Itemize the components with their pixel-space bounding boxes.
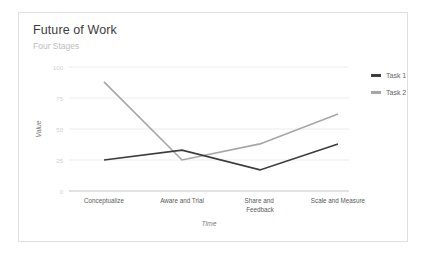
legend-swatch-icon (371, 91, 381, 94)
legend-swatch-icon (371, 74, 381, 77)
y-tick-label: 75 (56, 96, 63, 102)
x-tick-label-line1: Share and (245, 197, 275, 204)
chart-card: Future of Work Four Stages 100 75 50 25 … (18, 12, 408, 242)
x-tick-label-line2: Feedback (246, 206, 275, 213)
legend-item-task2[interactable]: Task 2 (371, 88, 425, 97)
chart-legend: Task 1 Task 2 (371, 71, 425, 105)
x-tick-label: Conceptualize (84, 197, 124, 205)
x-axis-title: Time (201, 220, 216, 227)
series-line-task2 (104, 82, 338, 160)
y-tick-label: 25 (56, 158, 63, 164)
legend-label: Task 1 (386, 72, 406, 79)
y-axis-title: Value (35, 120, 42, 137)
y-axis-tick-labels: 100 75 50 25 0 (53, 65, 64, 195)
legend-label: Task 2 (386, 89, 406, 96)
gridlines (69, 67, 349, 160)
y-tick-label: 100 (53, 65, 64, 71)
x-tick-label: Aware and Trial (160, 197, 204, 204)
x-tick-label: Scale and Measure (311, 197, 366, 204)
line-chart-plot: 100 75 50 25 0 Conceptualize Aware and T… (19, 13, 409, 243)
series-line-task1 (104, 144, 338, 170)
x-tick-label: Share and Feedback (245, 197, 276, 213)
y-tick-label: 0 (60, 189, 64, 195)
x-axis-category-labels: Conceptualize Aware and Trial Share and … (84, 197, 366, 213)
legend-item-task1[interactable]: Task 1 (371, 71, 425, 80)
y-tick-label: 50 (56, 127, 63, 133)
